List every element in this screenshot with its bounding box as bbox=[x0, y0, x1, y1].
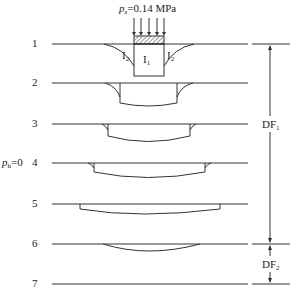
deformation-diagram bbox=[0, 0, 298, 297]
df2-label: DF2 bbox=[262, 259, 280, 272]
ph-label: ph=0 bbox=[2, 157, 23, 170]
level-4: 4 bbox=[32, 157, 38, 168]
level-1: 1 bbox=[32, 38, 38, 49]
level-6: 6 bbox=[32, 238, 38, 249]
level-2: 2 bbox=[32, 77, 38, 88]
level-3: 3 bbox=[32, 118, 38, 129]
zone-i2-right: I2 bbox=[167, 50, 174, 63]
level-7: 7 bbox=[32, 278, 38, 289]
zone-i1: I1 bbox=[143, 54, 150, 67]
zone-i2-left: I2 bbox=[122, 50, 129, 63]
level-5: 5 bbox=[32, 198, 38, 209]
load-value: =0.14 MPa bbox=[127, 2, 176, 14]
df1-label: DF1 bbox=[262, 119, 280, 132]
load-label: pz=0.14 MPa bbox=[119, 3, 176, 16]
